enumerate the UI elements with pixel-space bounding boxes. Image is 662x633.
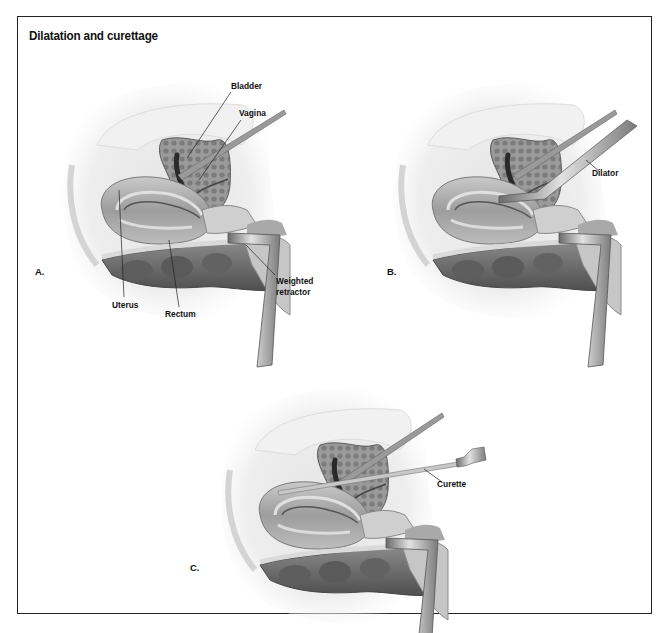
callout-bladder: Bladder [231,80,262,91]
panel-b-illustration [331,0,662,330]
curette-handle-icon [456,447,486,467]
callout-rectum: Rectum [165,308,196,319]
panel-label-a: A. [35,266,45,277]
panel-b: Dilator B. [331,0,662,330]
panel-label-b: B. [387,266,397,277]
panel-label-c: C. [190,562,200,573]
callout-dilator: Dilator [592,167,618,178]
panel-c: Curette C. [160,345,500,615]
callout-weighted-retractor: Weighted retractor [276,275,313,297]
callout-curette: Curette [437,478,466,489]
callout-uterus: Uterus [112,299,138,310]
callout-vagina: Vagina [239,107,266,118]
panel-a: Bladder Vagina Uterus Rectum Weighted re… [0,0,331,330]
